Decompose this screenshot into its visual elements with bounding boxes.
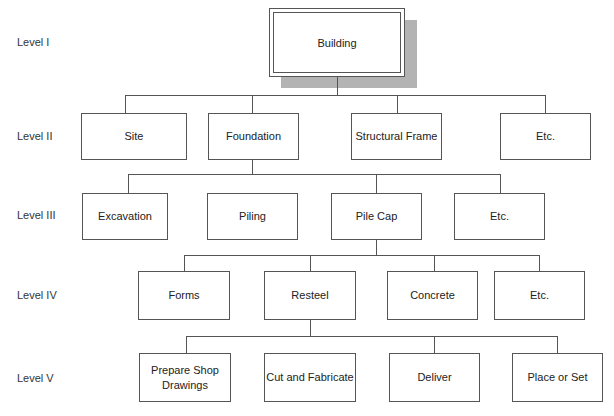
- connector: [252, 95, 253, 113]
- connector: [337, 77, 338, 95]
- level-label-1: Level I: [17, 36, 49, 48]
- node-building: Building: [269, 8, 405, 77]
- connector: [125, 95, 126, 113]
- connector: [557, 336, 558, 353]
- node-structural-frame: Structural Frame: [351, 113, 442, 160]
- node-prepare-shop-drawings-label: Prepare Shop Drawings: [150, 363, 220, 392]
- node-site: Site: [81, 113, 187, 160]
- node-foundation: Foundation: [208, 113, 299, 160]
- connector: [434, 255, 435, 271]
- level-label-2: Level II: [17, 130, 52, 142]
- node-place-or-set: Place or Set: [512, 353, 603, 402]
- node-etc-3: Etc.: [454, 193, 545, 240]
- node-cut-and-fabricate: Cut and Fabricate: [264, 353, 356, 402]
- connector: [446, 95, 546, 96]
- connector: [539, 255, 540, 271]
- node-etc-2: Etc.: [500, 113, 591, 160]
- node-piling: Piling: [207, 193, 298, 240]
- connector: [128, 174, 129, 193]
- connector: [397, 95, 398, 113]
- connector: [186, 336, 187, 353]
- node-excavation: Excavation: [82, 193, 168, 240]
- connector: [186, 336, 558, 337]
- node-deliver: Deliver: [389, 353, 480, 402]
- connector: [545, 95, 546, 113]
- connector: [310, 320, 311, 336]
- connector: [252, 160, 253, 174]
- node-forms: Forms: [138, 271, 230, 320]
- level-label-4: Level IV: [17, 289, 57, 301]
- connector: [376, 240, 377, 255]
- connector: [310, 255, 311, 271]
- node-building-label: Building: [273, 12, 401, 73]
- node-concrete: Concrete: [387, 271, 478, 320]
- level-label-3: Level III: [17, 209, 56, 221]
- connector: [184, 255, 540, 256]
- node-prepare-shop-drawings: Prepare Shop Drawings: [139, 353, 231, 402]
- connector: [128, 174, 501, 175]
- connector: [434, 336, 435, 353]
- connector: [500, 174, 501, 193]
- node-resteel: Resteel: [264, 271, 356, 320]
- level-label-5: Level V: [17, 372, 54, 384]
- connector: [184, 255, 185, 271]
- node-etc-4: Etc.: [494, 271, 585, 320]
- node-pile-cap: Pile Cap: [331, 193, 422, 240]
- connector: [376, 174, 377, 193]
